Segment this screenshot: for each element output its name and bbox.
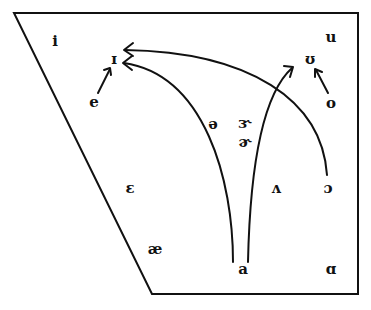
vowel-schwa: ə xyxy=(208,115,218,133)
vowel-small-capital-i: ɪ xyxy=(111,50,117,68)
vowel-wedge: ʌ xyxy=(271,179,281,197)
vowel-i: i xyxy=(52,32,58,50)
vowel-script-a: ɑ xyxy=(326,260,337,278)
vowel-chart: i u ɪ ʊ e o ə ɝ ɚ ɛ ʌ ɔ æ a ɑ xyxy=(0,0,371,310)
vowel-u: u xyxy=(326,28,337,46)
vowel-ash: æ xyxy=(148,240,163,258)
vowel-e: e xyxy=(89,93,99,111)
vowel-upsilon: ʊ xyxy=(305,50,315,68)
vowel-rhotic-open-mid: ɝ xyxy=(238,114,252,132)
vowel-o: o xyxy=(326,94,336,112)
vowel-open-o: ɔ xyxy=(323,179,332,197)
vowel-epsilon: ɛ xyxy=(125,179,134,197)
vowel-a: a xyxy=(238,260,248,278)
vowel-rhotic-schwa: ɚ xyxy=(238,133,252,151)
arrow-open-o-to-I xyxy=(125,50,327,175)
arrow-a-to-I xyxy=(124,63,233,262)
arrow-o-to-U xyxy=(316,70,328,93)
arrow-a-to-U xyxy=(248,68,292,262)
arrow-e-to-I xyxy=(98,69,110,93)
